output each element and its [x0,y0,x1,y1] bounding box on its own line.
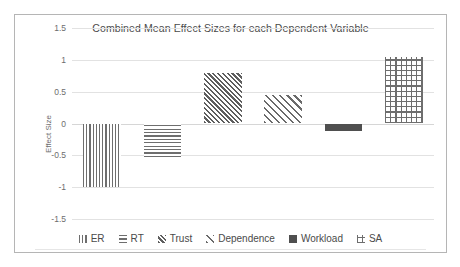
y-axis-tick-label: 0.5 [54,87,66,97]
chart-legend: ERRTTrustDependenceWorkloadSA [15,233,446,244]
chart-container: Combined Mean Effect Sizes for each Depe… [14,14,447,253]
legend-label: RT [131,233,144,244]
bar-rt[interactable] [144,124,181,158]
gridline [72,28,434,29]
y-axis-label: Effect Size [44,114,53,152]
y-axis-tick-label: 1 [61,55,66,65]
bar-sa[interactable] [385,57,422,124]
bar-er[interactable] [83,124,120,187]
legend-swatch-icon [289,235,297,243]
legend-divider [35,249,426,250]
gridline [72,219,434,220]
gridline [72,92,434,93]
legend-label: SA [369,233,382,244]
plot-area: 1.510.50-0.5-1-1.5 [72,28,434,219]
legend-item-er[interactable]: ER [79,233,105,244]
legend-item-dependence[interactable]: Dependence [206,233,275,244]
legend-item-sa[interactable]: SA [357,233,382,244]
gridline [72,187,434,188]
bar-workload[interactable] [325,124,362,132]
legend-label: ER [91,233,105,244]
bar-dependence[interactable] [264,95,301,123]
legend-label: Trust [170,233,192,244]
legend-swatch-icon [357,235,365,243]
legend-swatch-icon [206,235,214,243]
gridline [72,124,434,125]
gridline [72,155,434,156]
bar-trust[interactable] [204,73,241,124]
y-axis-tick-label: -1 [58,182,66,192]
y-axis-tick-label: 1.5 [54,23,66,33]
legend-item-trust[interactable]: Trust [158,233,192,244]
legend-swatch-icon [119,235,127,243]
y-axis-tick-label: -0.5 [51,150,66,160]
gridline [72,60,434,61]
y-axis-tick-label: -1.5 [51,214,66,224]
legend-item-workload[interactable]: Workload [289,233,343,244]
legend-swatch-icon [79,235,87,243]
legend-swatch-icon [158,235,166,243]
legend-label: Dependence [218,233,275,244]
y-axis-tick-label: 0 [61,119,66,129]
legend-label: Workload [301,233,343,244]
legend-item-rt[interactable]: RT [119,233,144,244]
